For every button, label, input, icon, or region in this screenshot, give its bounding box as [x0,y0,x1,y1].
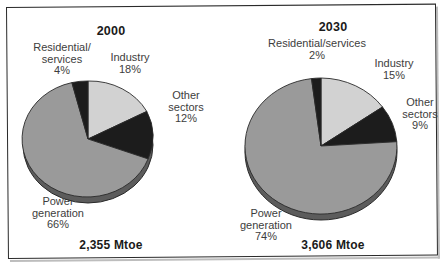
label-residential-line1: Residential/services [268,37,366,49]
pie-top-face-2000 [22,81,153,197]
label-other-pct: 12% [155,113,217,125]
label-residential-services-2000: Residential/ services 4% [14,42,110,77]
pie-chart-2000 [18,73,163,205]
figure-root: 2000 Residential/ services 4% Industry 1… [0,0,444,273]
label-other-line2: sectors [402,108,437,120]
chart-title-2000: 2000 [0,24,222,38]
total-label-2030: 3,606 Mtoe [222,238,444,252]
label-industry-2000: Industry 18% [97,52,163,75]
chart-panel-2030: 2030 Residential/services 2% Industry 15… [222,0,444,273]
label-industry-name: Industry [374,57,413,69]
chart-title-2030: 2030 [222,20,444,34]
label-residential-line2: services [42,53,82,65]
label-other-line2: sectors [168,101,203,113]
label-industry-name: Industry [110,51,149,63]
label-other-line1: Other [172,89,200,101]
label-residential-line1: Residential/ [33,41,90,53]
label-power-line2: generation [32,207,84,219]
chart-panel-2000: 2000 Residential/ services 4% Industry 1… [0,0,222,273]
label-other-line1: Other [406,96,434,108]
pie-top-face-2030 [245,78,397,214]
label-other-sectors-2000: Other sectors 12% [155,90,217,125]
total-label-2000: 2,355 Mtoe [0,238,222,252]
label-power-pct: 66% [8,219,108,231]
pie-chart-2030 [241,70,406,222]
